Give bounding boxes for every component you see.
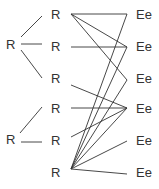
edge-l2-m4 (20, 107, 42, 133)
middle-node-m2: R (51, 40, 60, 53)
edge-layer (0, 0, 159, 189)
middle-node-m6: R (51, 166, 60, 179)
right-node-e6: Ee (136, 166, 152, 179)
right-node-e4: Ee (136, 102, 152, 115)
right-node-e3: Ee (136, 72, 152, 85)
edge-m6-e4 (71, 108, 127, 169)
middle-node-m3: R (51, 72, 60, 85)
edge-m5-e4 (71, 108, 127, 137)
edge-m6-e1 (71, 14, 127, 169)
edge-l1-m3 (21, 50, 42, 78)
right-node-e5: Ee (136, 134, 152, 147)
edge-m1-e2 (71, 14, 127, 47)
right-node-e1: Ee (136, 8, 152, 21)
edge-l1-m1 (21, 16, 42, 37)
middle-node-m4: R (51, 102, 60, 115)
middle-node-m1: R (51, 8, 60, 21)
edge-m6-e3 (71, 80, 127, 169)
diagram-canvas: RRRRRRRREeEeEeEeEeEe (0, 0, 159, 189)
left-node-l1: R (6, 38, 15, 51)
middle-node-m5: R (51, 134, 60, 147)
left-node-l2: R (6, 133, 15, 146)
edge-m6-e6 (71, 169, 127, 174)
edge-m3-e4 (71, 85, 127, 108)
right-node-e2: Ee (136, 40, 152, 53)
